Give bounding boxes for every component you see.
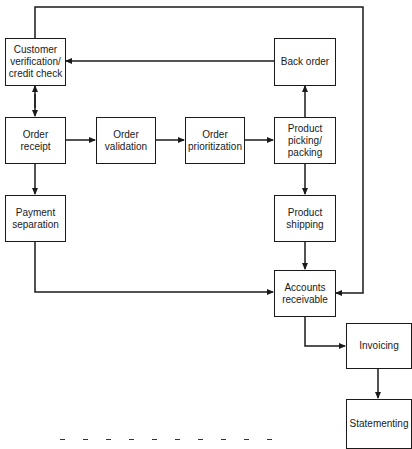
payment-to-ar-line [35,241,273,292]
node-invoicing: Invoicing [346,323,412,369]
node-label: Payment separation [12,207,59,231]
node-label: Invoicing [359,340,398,352]
node-label: Product picking/ packing [288,123,322,159]
node-statementing: Statementing [346,399,412,449]
node-accounts-receivable: Accounts receivable [274,270,336,317]
node-label: Order prioritization [188,129,242,153]
node-order-prioritization: Order prioritization [185,117,245,164]
node-order-validation: Order validation [96,117,156,164]
node-label: Order validation [105,129,147,153]
node-back-order: Back order [274,38,336,86]
node-product-shipping: Product shipping [274,195,336,242]
figure-caption-clipped [60,434,340,441]
node-label: Back order [281,56,329,68]
node-label: Customer verification/ credit check [9,44,62,80]
node-label: Order receipt [20,129,50,153]
node-customer-verification: Customer verification/ credit check [5,38,66,86]
ar-to-invoicing-line [305,316,345,346]
node-label: Statementing [350,418,409,430]
node-order-receipt: Order receipt [5,117,66,164]
node-payment-separation: Payment separation [5,195,66,242]
node-label: Product shipping [286,207,323,231]
node-label: Accounts receivable [282,282,328,306]
node-product-picking: Product picking/ packing [274,117,336,164]
